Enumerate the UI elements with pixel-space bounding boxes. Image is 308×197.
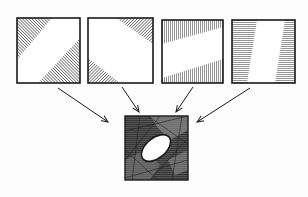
panel-3 (162, 20, 223, 83)
combined-result (125, 116, 188, 180)
panel-2 (88, 18, 153, 83)
panel-1 (17, 18, 80, 83)
projection-diagram (0, 0, 308, 197)
panel-4 (232, 20, 295, 83)
